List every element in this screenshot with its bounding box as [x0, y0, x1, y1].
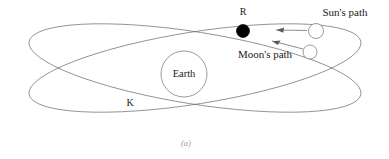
label-node-R: R	[240, 7, 247, 17]
label-moons-path: Moon's path	[238, 49, 292, 60]
figure-caption: (a)	[181, 139, 191, 148]
suns-path-arrow	[276, 27, 307, 32]
moon-circle	[303, 45, 317, 59]
node-point-R	[237, 25, 250, 38]
label-earth: Earth	[173, 69, 196, 80]
label-suns-path: Sun's path	[322, 7, 367, 18]
label-node-K: K	[126, 98, 133, 108]
sun-circle	[309, 24, 324, 39]
orbital-diagram-figure: R K Earth Sun's path Moon's path (a)	[0, 0, 389, 159]
diagram-canvas	[0, 0, 389, 159]
